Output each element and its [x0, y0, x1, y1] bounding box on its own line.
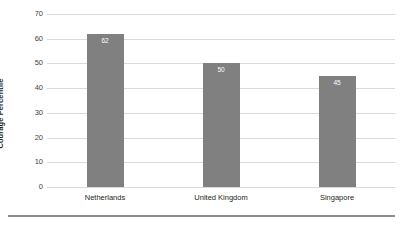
x-axis-category-label: United Kingdom	[163, 193, 279, 203]
y-axis-tick-label: 10	[3, 158, 43, 166]
y-axis-tick-label: 0	[3, 183, 43, 191]
gridline	[47, 187, 395, 188]
bar[interactable]: 45	[319, 76, 356, 187]
y-axis-tick-label: 60	[3, 35, 43, 43]
y-axis-tick-label: 50	[3, 59, 43, 67]
bar[interactable]: 50	[203, 63, 240, 187]
bar-value-label: 62	[87, 37, 124, 45]
x-axis-category-label: Netherlands	[47, 193, 163, 203]
x-axis-category-labels: NetherlandsUnited KingdomSingapore	[47, 193, 395, 207]
bottom-divider	[8, 215, 395, 217]
bar[interactable]: 62	[87, 34, 124, 187]
y-axis-tick-label: 70	[3, 10, 43, 18]
plot-area: 625045	[47, 14, 395, 187]
y-axis-tick-label: 30	[3, 109, 43, 117]
y-axis-tick-label: 20	[3, 134, 43, 142]
x-axis-category-label: Singapore	[279, 193, 395, 203]
bar-chart: Courage Percentile 010203040506070 62504…	[0, 0, 403, 227]
bar-value-label: 50	[203, 66, 240, 74]
y-axis-tick-label: 40	[3, 84, 43, 92]
y-axis-tick-labels: 010203040506070	[0, 14, 43, 187]
bar-value-label: 45	[319, 79, 356, 87]
gridline	[47, 14, 395, 15]
